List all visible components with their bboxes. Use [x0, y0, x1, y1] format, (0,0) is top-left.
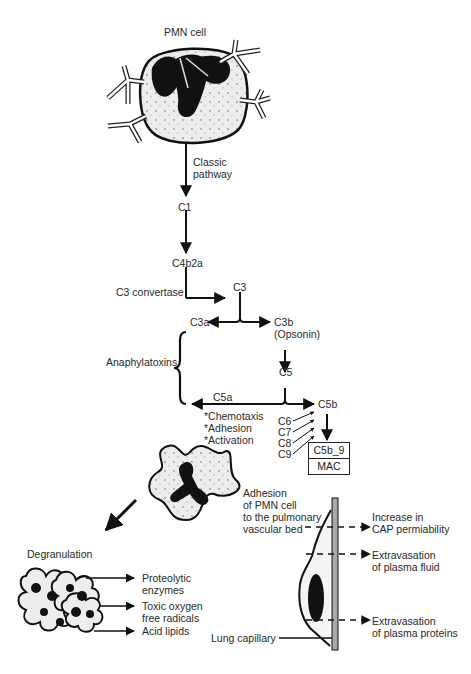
degranulation-label: Degranulation	[27, 548, 92, 560]
node-c5: C5	[279, 366, 292, 378]
effect-chemotaxis: *Chemotaxis	[204, 410, 264, 422]
pathway-arrows	[174, 143, 327, 440]
pmn-cell-title: PMN cell	[164, 26, 206, 38]
node-c9: C9	[278, 448, 291, 460]
opsonin-label: (Opsonin)	[274, 328, 320, 340]
pmn-cell-icon	[140, 49, 247, 143]
effect-activation: *Activation	[204, 434, 254, 446]
node-c3a: C3a	[190, 316, 209, 328]
complement-pathway-diagram: PMN cell Classic pathway C1 C4b2a C3 con…	[0, 0, 471, 674]
outcome-fluid-2: of plasma fluid	[372, 561, 440, 573]
anaphylatoxins-label: Anaphylatoxins	[106, 356, 177, 368]
adhesion-label-2: of PMN cell	[243, 499, 297, 511]
effect-adhesion: *Adhesion	[204, 422, 252, 434]
outcome-proteins-2: of plasma proteins	[372, 627, 458, 639]
node-c3: C3	[233, 281, 246, 293]
c3-convertase-label: C3 convertase	[116, 286, 184, 298]
product-proteolytic-2: enzymes	[142, 584, 184, 596]
degranulation-arrow	[106, 500, 136, 530]
outcome-permeability-1: Increase in	[372, 511, 423, 523]
product-acid-lipids: Acid lipids	[142, 625, 189, 637]
adhesion-label-3: to the pulmonary	[243, 511, 321, 523]
product-oxygen-1: Toxic oxygen	[142, 600, 203, 612]
node-c3b: C3b	[274, 316, 293, 328]
node-c4b2a: C4b2a	[172, 257, 203, 269]
mac-label: MAC	[309, 458, 349, 474]
mac-complex-box: C5b_9 MAC	[308, 442, 350, 475]
lung-capillary-label: Lung capillary	[211, 632, 276, 644]
adhesion-label-4: vascular bed	[243, 523, 303, 535]
node-c1: C1	[178, 201, 191, 213]
product-proteolytic-1: Proteolytic	[142, 572, 191, 584]
outcome-permeability-2: CAP permiability	[372, 523, 449, 535]
outcome-proteins-1: Extravasation	[372, 615, 436, 627]
classic-pathway-label-1: Classic	[193, 156, 227, 168]
node-c5b: C5b	[318, 398, 337, 410]
node-c5a: C5a	[213, 391, 232, 403]
c5b9-label: C5b_9	[309, 443, 349, 458]
classic-pathway-label-2: pathway	[193, 168, 232, 180]
activated-neutrophil-icon	[149, 445, 239, 520]
product-oxygen-2: free radicals	[142, 612, 199, 624]
outcome-fluid-1: Extravasation	[372, 549, 436, 561]
adhesion-label-1: Adhesion	[243, 487, 287, 499]
